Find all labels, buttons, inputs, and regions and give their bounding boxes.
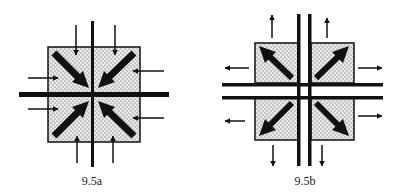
vertical-bar bbox=[91, 21, 94, 167]
small-arrow-icon-left-outward bbox=[225, 68, 249, 121]
figure-a-caption: 9.5a bbox=[82, 174, 102, 189]
figure-b-caption: 9.5b bbox=[295, 174, 316, 189]
diagram-canvas bbox=[0, 0, 401, 193]
horizontal-bar-upper bbox=[222, 83, 383, 87]
small-arrow-icon-right-outward bbox=[358, 68, 382, 116]
figure-a bbox=[19, 21, 169, 167]
vertical-bar-right bbox=[308, 14, 312, 166]
horizontal-bar-lower bbox=[222, 96, 383, 100]
figure-b bbox=[222, 14, 383, 166]
vertical-bar-left bbox=[297, 14, 301, 166]
